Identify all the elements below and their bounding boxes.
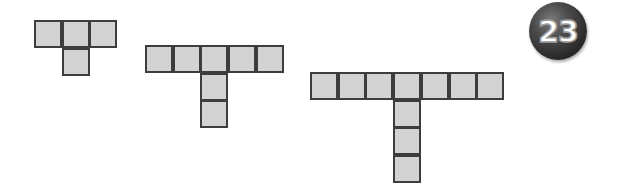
square-cell (449, 72, 477, 100)
square-cell (62, 48, 90, 76)
square-cell (200, 45, 228, 73)
square-cell (200, 100, 228, 128)
square-cell (173, 45, 201, 73)
square-cell (393, 127, 421, 155)
square-cell (34, 20, 62, 48)
square-cell (256, 45, 284, 73)
square-cell (338, 72, 366, 100)
square-cell (393, 155, 421, 183)
square-cell (228, 45, 256, 73)
square-cell (476, 72, 504, 100)
square-cell (145, 45, 173, 73)
square-cell (365, 72, 393, 100)
problem-number: 23 (538, 14, 578, 49)
square-cell (393, 72, 421, 100)
square-cell (421, 72, 449, 100)
square-cell (200, 73, 228, 101)
problem-number-badge: 23 (529, 2, 587, 60)
square-cell (89, 20, 117, 48)
square-cell (393, 100, 421, 128)
square-cell (310, 72, 338, 100)
square-cell (62, 20, 90, 48)
